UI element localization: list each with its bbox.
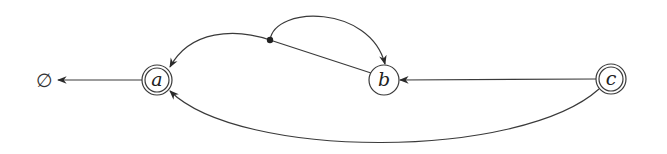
junction-dot — [267, 37, 273, 43]
automaton-diagram: a b c ∅ — [0, 0, 667, 154]
node-a: a — [142, 65, 172, 95]
node-c: c — [596, 64, 626, 94]
node-b: b — [369, 65, 399, 95]
edge-junction-to-a — [170, 33, 270, 67]
edge-c-to-b — [400, 79, 596, 80]
node-a-label: a — [151, 68, 162, 90]
edge-junction-to-b — [270, 16, 385, 64]
edge-c-to-a — [170, 89, 599, 143]
edge-b-to-junction — [270, 40, 371, 73]
empty-set-sink: ∅ — [36, 69, 53, 91]
node-b-label: b — [378, 68, 390, 90]
node-c-label: c — [606, 67, 617, 89]
